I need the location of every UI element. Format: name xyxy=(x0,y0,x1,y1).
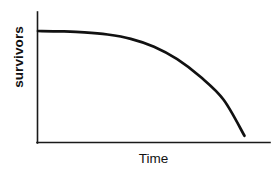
survivorship-curve-line xyxy=(38,31,244,136)
chart-canvas xyxy=(0,0,278,174)
x-axis-label-text: Time xyxy=(139,151,169,166)
x-axis-label: Time xyxy=(37,151,270,166)
survivorship-curve-figure: survivors Time xyxy=(0,0,278,174)
